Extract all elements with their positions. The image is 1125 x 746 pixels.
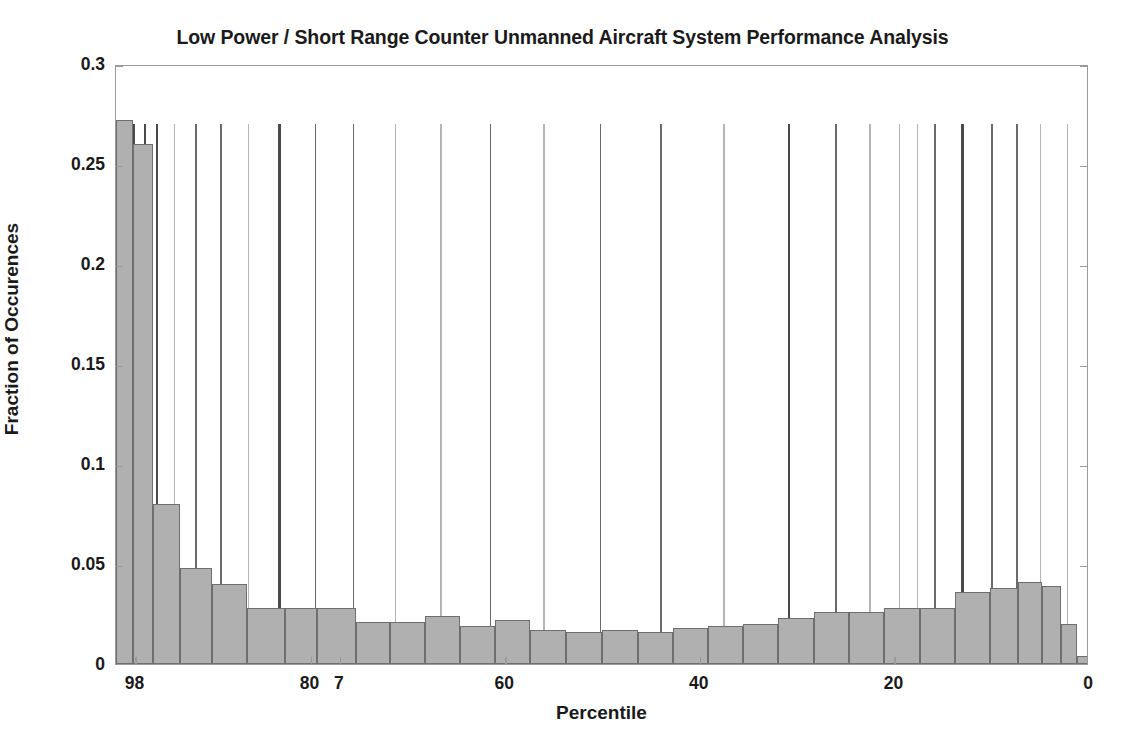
plot-area [115, 65, 1088, 665]
x-axis-tick [894, 657, 895, 664]
x-axis-tick [505, 657, 506, 664]
y-axis-tick [116, 266, 123, 267]
y-axis-tick-mirror [1080, 66, 1087, 67]
y-axis-tick-mirror [1080, 366, 1087, 367]
y-axis-tick-mirror [1080, 466, 1087, 467]
x-axis-title: Percentile [115, 702, 1088, 724]
y-axis-tick-label: 0.15 [17, 354, 105, 375]
y-axis-tick [116, 66, 123, 67]
x-axis-tick-label: 0 [1058, 673, 1118, 694]
figure-canvas: Low Power / Short Range Counter Unmanned… [0, 0, 1125, 746]
x-axis-tick-label: 98 [104, 673, 164, 694]
x-axis-tick-label: 20 [863, 673, 923, 694]
y-axis-tick-label: 0 [17, 654, 105, 675]
y-axis-tick [116, 466, 123, 467]
y-axis-tick-label: 0.2 [17, 254, 105, 275]
x-axis-tick-label: 7 [309, 673, 369, 694]
x-axis-tick [135, 657, 136, 664]
y-axis-tick-label: 0.05 [17, 554, 105, 575]
y-axis-tick-label: 0.3 [17, 54, 105, 75]
axis-ticks-layer [116, 66, 1087, 664]
y-axis-title: Fraction of Occurences [1, 149, 23, 509]
y-axis-tick-mirror [1080, 166, 1087, 167]
x-axis-tick [340, 657, 341, 664]
y-axis-tick-label: 0.1 [17, 454, 105, 475]
y-axis-tick-label: 0.25 [17, 154, 105, 175]
y-axis-tick [116, 566, 123, 567]
y-axis-tick-mirror [1080, 566, 1087, 567]
y-axis-tick [116, 366, 123, 367]
chart-title: Low Power / Short Range Counter Unmanned… [0, 26, 1125, 49]
x-axis-tick [700, 657, 701, 664]
y-axis-tick-mirror [1080, 266, 1087, 267]
y-axis-tick [116, 166, 123, 167]
x-axis-tick-label: 40 [669, 673, 729, 694]
x-axis-tick-label: 60 [474, 673, 534, 694]
x-axis-tick [311, 657, 312, 664]
